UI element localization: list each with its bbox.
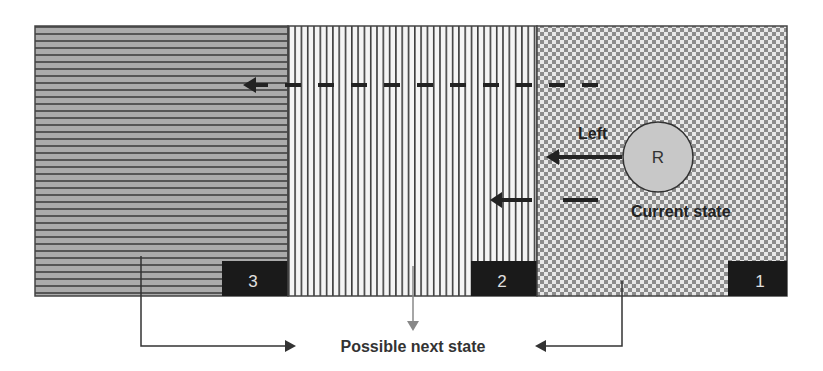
region-3: 3 — [35, 26, 288, 296]
arrowhead-down-icon — [407, 321, 419, 331]
current-state-caption: Current state — [631, 203, 731, 220]
state-transition-diagram: 3 2 1 Left R Current state — [0, 0, 823, 371]
region-3-label: 3 — [248, 272, 257, 291]
next-state-label: Possible next state — [341, 338, 486, 355]
region-2-label: 2 — [497, 272, 506, 291]
region-2: 2 — [288, 26, 537, 296]
arrowhead-left-icon — [535, 340, 546, 352]
action-label: Left — [578, 125, 608, 142]
region-1-label: 1 — [755, 272, 764, 291]
arrowhead-right-icon — [285, 340, 296, 352]
robot-label: R — [652, 148, 664, 167]
